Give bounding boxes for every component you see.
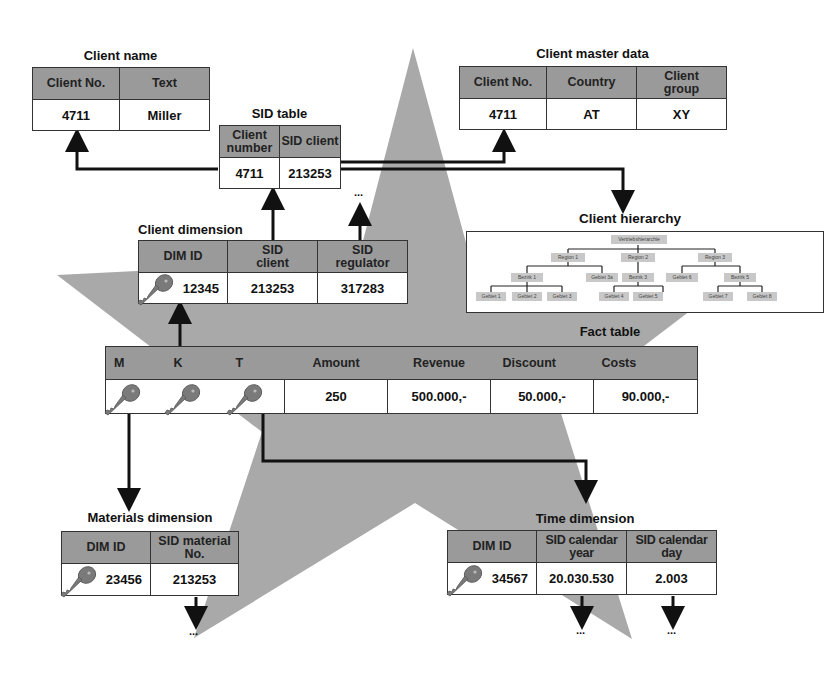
cell-text: Miller <box>120 100 210 131</box>
time-dimension-table: DIM ID SID calendar year SID calendar da… <box>447 530 717 595</box>
materials-continuation: ... <box>189 625 198 637</box>
time-year-continuation: ... <box>576 624 585 636</box>
header-dim-id: DIM ID <box>139 241 228 273</box>
key-icon <box>162 383 202 419</box>
hierarchy-region-2: Region 2 <box>621 253 655 262</box>
cell-revenue: 500.000,- <box>388 380 491 414</box>
cell-amount: 250 <box>285 380 388 414</box>
materials-dimension-title: Materials dimension <box>60 510 240 525</box>
client-master-table: Client No. Country Client group 4711 AT … <box>459 66 727 130</box>
hierarchy-bezirk-5: Bezirk 5 <box>724 273 756 282</box>
hierarchy-gebiet-5: Gebiet 5 <box>633 292 663 301</box>
time-day-continuation: ... <box>667 624 676 636</box>
hierarchy-gebiet-7: Gebiet 7 <box>703 292 733 301</box>
client-dimension-table: DIM ID SID client SID regulator 12345 21… <box>138 240 408 304</box>
client-name-title: Client name <box>32 48 209 63</box>
hierarchy-gebiet-3: Gebiet 3 <box>547 292 577 301</box>
fact-table: M K T Amount Revenue Discount Costs 250 … <box>105 346 698 414</box>
cell-sid-client: 213253 <box>228 273 318 304</box>
client-dimension-title: Client dimension <box>138 222 243 237</box>
key-icon <box>135 273 175 309</box>
cell-client-no: 4711 <box>33 100 120 131</box>
header-sid-calendar-year: SID calendar year <box>537 531 627 563</box>
header-text: Text <box>120 68 210 100</box>
sid-table-title: SID table <box>219 106 340 121</box>
cell-client-no: 4711 <box>460 99 547 130</box>
cell-key-t <box>228 380 285 414</box>
key-icon <box>224 383 264 419</box>
cell-sid-client: 213253 <box>280 158 341 189</box>
cell-key-m <box>106 380 166 414</box>
header-sid-material-no: SID material No. <box>151 532 239 564</box>
cell-sid-calendar-day: 2.003 <box>627 563 717 595</box>
client-hierarchy-box: Vertriebshierarchie Region 1 Region 2 Re… <box>466 231 824 313</box>
header-sid-regulator: SID regulator <box>318 241 408 273</box>
dim-id-value: 12345 <box>183 281 219 296</box>
header-sid-calendar-day: SID calendar day <box>627 531 717 563</box>
key-icon <box>58 565 98 601</box>
hierarchy-region-3: Region 3 <box>698 253 732 262</box>
cell-dim-id: 23456 <box>62 564 151 596</box>
cell-sid-regulator: 317283 <box>318 273 408 304</box>
hierarchy-root: Vertriebshierarchie <box>611 235 667 244</box>
header-sid-client: SID client <box>280 126 341 158</box>
header-dim-id: DIM ID <box>62 532 151 564</box>
cell-client-group: XY <box>637 99 727 130</box>
header-amount: Amount <box>285 347 388 380</box>
hierarchy-region-1: Region 1 <box>551 253 585 262</box>
header-country: Country <box>547 67 637 99</box>
header-key-t: T <box>228 347 285 380</box>
header-discount: Discount <box>491 347 594 380</box>
header-sid-client: SID client <box>228 241 318 273</box>
hierarchy-bezirk-1: Bezirk 1 <box>511 273 543 282</box>
fact-table-title: Fact table <box>560 324 660 339</box>
hierarchy-gebiet-1: Gebiet 1 <box>476 292 506 301</box>
hierarchy-gebiet-6: Gebiet 6 <box>666 273 698 282</box>
cell-sid-calendar-year: 20.030.530 <box>537 563 627 595</box>
cell-client-number: 4711 <box>220 158 280 189</box>
cell-discount: 50.000,- <box>491 380 594 414</box>
header-client-number: Client number <box>220 126 280 158</box>
client-hierarchy-title: Client hierarchy <box>560 211 700 226</box>
cell-sid-material-no: 213253 <box>151 564 239 596</box>
hierarchy-gebiet-8: Gebiet 8 <box>747 292 777 301</box>
sid-table: Client number SID client 4711 213253 <box>219 125 341 189</box>
header-client-no: Client No. <box>460 67 547 99</box>
header-client-no: Client No. <box>33 68 120 100</box>
header-costs: Costs <box>594 347 698 380</box>
hierarchy-gebiet-3a: Gebiet 3a <box>586 273 618 282</box>
sid-regulator-continuation: ... <box>354 186 363 198</box>
materials-dimension-table: DIM ID SID material No. 23456 213253 <box>61 531 239 596</box>
header-key-k: K <box>166 347 228 380</box>
header-revenue: Revenue <box>388 347 491 380</box>
header-dim-id: DIM ID <box>448 531 537 563</box>
cell-country: AT <box>547 99 637 130</box>
cell-key-k <box>166 380 228 414</box>
hierarchy-gebiet-4: Gebiet 4 <box>599 292 629 301</box>
key-icon <box>444 564 484 600</box>
time-dimension-title: Time dimension <box>520 511 650 526</box>
hierarchy-bezirk-3: Bezirk 3 <box>622 273 654 282</box>
cell-dim-id: 34567 <box>448 563 537 595</box>
dim-id-value: 34567 <box>492 571 528 586</box>
client-master-title: Client master data <box>459 46 726 61</box>
key-icon <box>102 383 142 419</box>
header-client-group: Client group <box>637 67 727 99</box>
header-key-m: M <box>106 347 166 380</box>
hierarchy-gebiet-2: Gebiet 2 <box>512 292 542 301</box>
client-name-table: Client No. Text 4711 Miller <box>32 67 210 131</box>
cell-dim-id: 12345 <box>139 273 228 304</box>
dim-id-value: 23456 <box>106 572 142 587</box>
cell-costs: 90.000,- <box>594 380 698 414</box>
